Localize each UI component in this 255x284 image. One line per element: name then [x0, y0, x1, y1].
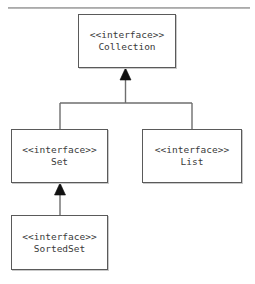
stereotype-label: <<interface>>	[22, 144, 96, 156]
uml-class-sortedset[interactable]: <<interface>> SortedSet	[11, 215, 108, 270]
class-name-label: List	[181, 156, 204, 168]
generalization-set-list-to-collection	[60, 68, 192, 129]
generalization-sortedset-to-set	[55, 183, 66, 215]
arrowhead-into-set	[55, 183, 66, 195]
uml-class-diagram: <<interface>> Collection <<interface>> S…	[0, 0, 255, 284]
stereotype-label: <<interface>>	[155, 144, 229, 156]
class-name-label: SortedSet	[34, 243, 85, 255]
uml-class-set[interactable]: <<interface>> Set	[11, 129, 108, 183]
class-name-label: Collection	[98, 41, 155, 53]
class-name-label: Set	[51, 156, 68, 168]
stereotype-label: <<interface>>	[22, 231, 96, 243]
uml-class-list[interactable]: <<interface>> List	[142, 129, 242, 183]
arrowhead-into-collection	[120, 68, 131, 80]
uml-class-collection[interactable]: <<interface>> Collection	[78, 14, 176, 68]
stereotype-label: <<interface>>	[90, 29, 164, 41]
